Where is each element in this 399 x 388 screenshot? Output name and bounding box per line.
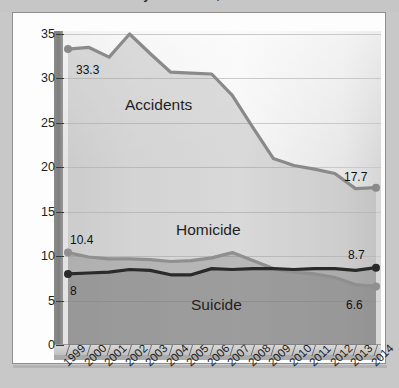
series-label-suicide: Suicide	[191, 296, 242, 314]
chart-screenshot: Rates of death by accidents, homicide an…	[0, 0, 399, 388]
value-label-end-suicide: 8.7	[348, 248, 365, 262]
value-label-start-accidents: 33.3	[76, 63, 99, 77]
chart-title-strip: Rates of death by accidents, homicide an…	[0, 0, 399, 12]
series-endpoint-marker	[64, 249, 72, 257]
series-label-accidents: Accidents	[125, 96, 192, 114]
value-label-start-suicide: 8	[70, 284, 77, 298]
chart-title: Rates of death by accidents, homicide an…	[39, 0, 360, 2]
series-endpoint-marker	[372, 264, 380, 272]
series-label-homicide: Homicide	[176, 221, 241, 239]
value-label-end-homicide: 6.6	[346, 298, 363, 312]
series-endpoint-marker	[372, 184, 380, 192]
series-endpoint-marker	[372, 282, 380, 290]
series-endpoint-marker	[64, 270, 72, 278]
plot-area: 05101520253035 1999200020012002200320042…	[42, 17, 382, 347]
chart-card: 05101520253035 1999200020012002200320042…	[12, 12, 386, 364]
value-label-end-accidents: 17.7	[344, 170, 367, 184]
series-endpoint-marker	[64, 45, 72, 53]
value-label-start-homicide: 10.4	[70, 233, 93, 247]
